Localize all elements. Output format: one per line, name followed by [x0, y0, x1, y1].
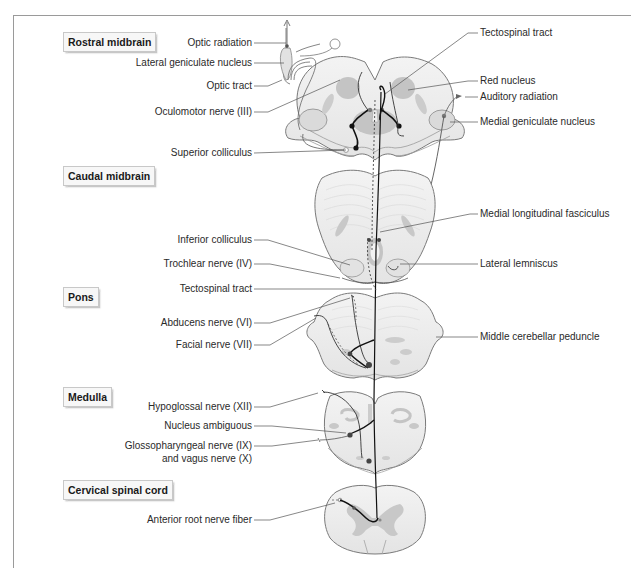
label-trochlear-nerve: Trochlear nerve (IV) — [163, 258, 252, 270]
label-lateral-geniculate-nucleus: Lateral geniculate nucleus — [136, 57, 252, 69]
cervical-spinal-cord-section — [325, 485, 426, 554]
label-tectospinal-tract-left: Tectospinal tract — [180, 283, 252, 295]
section-label-cervical-spinal-cord: Cervical spinal cord — [63, 480, 173, 500]
label-medial-longitudinal-fasciculus: Medial longitudinal fasciculus — [480, 208, 610, 220]
label-oculomotor-nerve: Oculomotor nerve (III) — [155, 106, 252, 118]
label-abducens-nerve: Abducens nerve (VI) — [161, 317, 252, 329]
caudal-midbrain-section — [315, 170, 435, 283]
label-optic-tract: Optic tract — [206, 80, 252, 92]
label-vagus-nerve: and vagus nerve (X) — [162, 453, 252, 465]
label-facial-nerve: Facial nerve (VII) — [176, 339, 252, 351]
label-red-nucleus: Red nucleus — [480, 75, 536, 87]
label-auditory-radiation: Auditory radiation — [480, 91, 558, 103]
label-anterior-root-nerve-fiber: Anterior root nerve fiber — [147, 514, 252, 526]
label-tectospinal-tract-right: Tectospinal tract — [480, 27, 552, 39]
section-label-rostral-midbrain: Rostral midbrain — [63, 32, 156, 52]
label-inferior-colliculus: Inferior colliculus — [178, 234, 252, 246]
section-label-pons: Pons — [63, 287, 99, 307]
section-label-medulla: Medulla — [63, 387, 112, 407]
label-hypoglossal-nerve: Hypoglossal nerve (XII) — [148, 401, 252, 413]
label-lateral-lemniscus: Lateral lemniscus — [480, 258, 558, 270]
section-label-caudal-midbrain: Caudal midbrain — [63, 166, 155, 186]
label-optic-radiation: Optic radiation — [188, 37, 252, 49]
label-superior-colliculus: Superior colliculus — [171, 147, 252, 159]
label-nucleus-ambiguous: Nucleus ambiguous — [164, 420, 252, 432]
label-medial-geniculate-nucleus: Medial geniculate nucleus — [480, 116, 595, 128]
label-glossopharyngeal-nerve: Glossopharyngeal nerve (IX) — [125, 440, 252, 452]
label-middle-cerebellar-peduncle: Middle cerebellar peduncle — [480, 331, 600, 343]
